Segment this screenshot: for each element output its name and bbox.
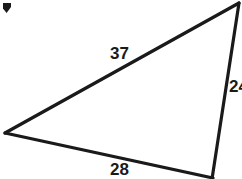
geometry-figure: 37 28 24 xyxy=(0,0,242,179)
side-label-right: 24 xyxy=(229,78,242,95)
triangle-edge-bottom xyxy=(5,133,213,178)
side-label-bottom: 28 xyxy=(110,161,129,178)
triangle-shape xyxy=(0,0,242,179)
side-label-upper: 37 xyxy=(110,45,129,62)
triangle-edge-upper-left xyxy=(5,3,239,133)
